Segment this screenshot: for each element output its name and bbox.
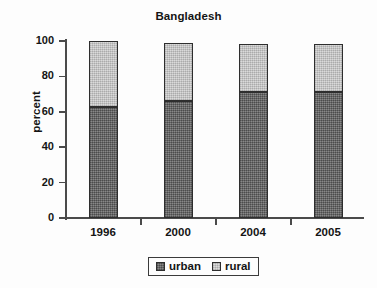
dark-gray-swatch-icon bbox=[156, 262, 165, 271]
stacked-bar-chart: Bangladesh percent 100 80 60 40 20 0 199… bbox=[0, 0, 377, 288]
chart-legend: urban rural bbox=[148, 257, 259, 276]
y-tick-0 bbox=[59, 217, 66, 219]
y-tick-80 bbox=[59, 76, 66, 78]
y-tick-60 bbox=[59, 111, 66, 113]
x-tick-1 bbox=[140, 219, 142, 225]
bar-2004 bbox=[239, 44, 268, 219]
bar-segment-rural-1996 bbox=[89, 41, 118, 107]
bar-segment-urban-2005 bbox=[314, 92, 343, 218]
y-tick-20 bbox=[59, 182, 66, 184]
bar-segment-rural-2004 bbox=[239, 44, 268, 93]
bar-2000 bbox=[164, 43, 193, 218]
y-tick-label-40: 40 bbox=[12, 140, 54, 152]
x-axis-label-2000: 2000 bbox=[148, 226, 208, 238]
x-tick-3 bbox=[290, 219, 292, 225]
bar-segment-urban-2004 bbox=[239, 92, 268, 218]
bar-1996 bbox=[89, 41, 118, 218]
y-tick-label-100: 100 bbox=[12, 34, 54, 46]
bar-2005 bbox=[314, 44, 343, 219]
legend-entry-rural: rural bbox=[212, 260, 251, 272]
x-axis-label-1996: 1996 bbox=[73, 226, 133, 238]
y-tick-label-20: 20 bbox=[12, 176, 54, 188]
chart-title: Bangladesh bbox=[0, 10, 377, 22]
bar-segment-rural-2000 bbox=[164, 43, 193, 101]
legend-label-urban: urban bbox=[169, 260, 201, 272]
x-tick-2 bbox=[215, 219, 217, 225]
y-tick-label-60: 60 bbox=[12, 105, 54, 117]
y-tick-label-80: 80 bbox=[12, 69, 54, 81]
y-tick-label-0: 0 bbox=[12, 211, 54, 223]
legend-label-rural: rural bbox=[225, 260, 251, 272]
y-axis-line bbox=[65, 39, 67, 220]
bar-segment-urban-2000 bbox=[164, 101, 193, 218]
bar-segment-urban-1996 bbox=[89, 107, 118, 219]
legend-entry-urban: urban bbox=[156, 260, 201, 272]
light-gray-swatch-icon bbox=[212, 262, 221, 271]
y-tick-40 bbox=[59, 146, 66, 148]
bar-segment-rural-2005 bbox=[314, 44, 343, 93]
x-axis-label-2005: 2005 bbox=[298, 226, 358, 238]
y-tick-100 bbox=[59, 40, 66, 42]
x-axis-label-2004: 2004 bbox=[223, 226, 283, 238]
